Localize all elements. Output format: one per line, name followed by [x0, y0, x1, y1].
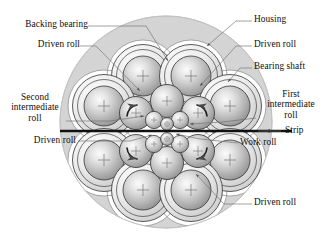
- label-driven-roll-mid-left: Driven roll: [0, 135, 76, 145]
- work-roll-lower: [161, 133, 174, 146]
- label-driven-roll-top-left: Driven roll: [8, 39, 80, 49]
- label-bearing-shaft: Bearing shaft: [254, 61, 305, 71]
- label-first-intermediate-roll-text: First intermediate roll: [267, 89, 315, 120]
- label-work-roll: Work roll: [240, 137, 277, 147]
- first-intermediate-roll: [145, 135, 162, 152]
- first-intermediate-roll: [171, 111, 188, 128]
- label-driven-roll-top-right: Driven roll: [254, 39, 296, 49]
- label-second-intermediate-roll-text: Second intermediate roll: [11, 92, 59, 123]
- label-first-intermediate-roll: First intermediate roll: [252, 89, 330, 120]
- work-roll-upper: [161, 118, 174, 131]
- label-backing-bearing: Backing bearing: [6, 19, 88, 29]
- first-intermediate-roll: [171, 135, 188, 152]
- first-intermediate-roll: [145, 111, 162, 128]
- label-driven-roll-bottom: Driven roll: [254, 197, 296, 207]
- label-strip: Strip: [285, 125, 304, 135]
- label-second-intermediate-roll: Second intermediate roll: [0, 92, 70, 123]
- label-housing: Housing: [254, 14, 286, 24]
